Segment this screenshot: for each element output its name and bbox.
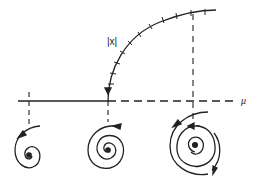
amplitude-curve bbox=[108, 10, 216, 101]
curve-arrow-icon bbox=[105, 88, 111, 94]
y-axis-label: |x| bbox=[107, 36, 117, 47]
phase-portrait-critical bbox=[88, 124, 124, 168]
phase-portrait-stable bbox=[15, 126, 40, 168]
x-axis-label: μ bbox=[241, 95, 246, 106]
bifurcation-diagram: |x| μ bbox=[0, 0, 260, 187]
curve-ticks bbox=[108, 9, 205, 84]
diagram-graphics bbox=[0, 0, 260, 187]
phase-portrait-limit-cycle bbox=[170, 112, 220, 174]
